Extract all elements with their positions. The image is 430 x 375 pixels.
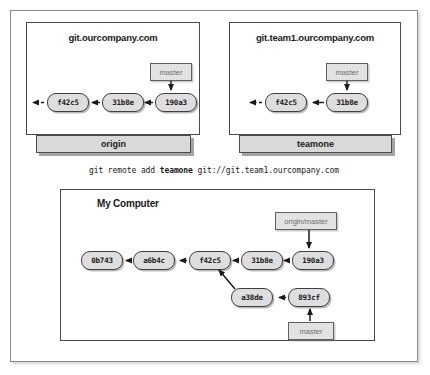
teamone-commit-f42c5: f42c5	[265, 93, 307, 112]
mycomputer-commit-893cf: 893cf	[288, 288, 330, 307]
mycomputer-commit-31b8e: 31b8e	[241, 251, 283, 270]
mycomputer-commit-190a3-hash: 190a3	[302, 256, 324, 265]
origin-branch-label-master: master	[150, 63, 192, 81]
remote-name-teamone-text: teamone	[297, 139, 334, 149]
panel-origin-title: git.ourcompany.com	[27, 32, 199, 43]
origin-branch-label-master-text: master	[160, 68, 183, 77]
origin-commit-f42c5: f42c5	[47, 93, 89, 112]
origin-commit-f42c5-hash: f42c5	[57, 98, 79, 107]
git-remotes-diagram: git.ourcompany.com master f42c5 31b8e 19…	[0, 0, 430, 375]
mycomputer-commit-a6b4c: a6b4c	[133, 251, 175, 270]
command-remote-name: teamone	[160, 166, 193, 175]
mycomputer-commit-f42c5-hash: f42c5	[199, 256, 221, 265]
teamone-commit-f42c5-hash: f42c5	[275, 98, 297, 107]
mycomputer-commit-31b8e-hash: 31b8e	[251, 256, 273, 265]
mycomputer-commit-893cf-hash: 893cf	[298, 293, 320, 302]
teamone-branch-label-master-text: master	[336, 68, 359, 77]
mycomputer-branch-label-origin-master: origin/master	[275, 212, 337, 230]
origin-commit-31b8e: 31b8e	[102, 93, 144, 112]
origin-commit-190a3-hash: 190a3	[165, 98, 187, 107]
mycomputer-commit-0b743: 0b743	[81, 251, 123, 270]
mycomputer-branch-label-origin-master-text: origin/master	[284, 217, 327, 226]
mycomputer-branch-label-master: master	[288, 322, 334, 340]
mycomputer-branch-label-master-text: master	[300, 327, 323, 336]
command-prefix: git remote add	[89, 166, 160, 175]
panel-my-computer-title: My Computer	[61, 198, 410, 209]
mycomputer-commit-a38de: a38de	[231, 288, 273, 307]
panel-teamone-title: git.team1.ourcompany.com	[230, 32, 400, 43]
command-suffix: git://git.team1.ourcompany.com	[193, 166, 339, 175]
origin-commit-31b8e-hash: 31b8e	[112, 98, 134, 107]
mycomputer-commit-a6b4c-hash: a6b4c	[143, 256, 165, 265]
command-caption: git remote add teamone git://git.team1.o…	[10, 166, 418, 175]
mycomputer-commit-0b743-hash: 0b743	[91, 256, 113, 265]
teamone-branch-label-master: master	[326, 63, 368, 81]
remote-name-teamone: teamone	[239, 135, 392, 153]
remote-name-origin-text: origin	[101, 139, 126, 149]
mycomputer-commit-a38de-hash: a38de	[241, 293, 263, 302]
panel-teamone-server: git.team1.ourcompany.com	[229, 22, 401, 135]
mycomputer-commit-f42c5: f42c5	[189, 251, 231, 270]
mycomputer-commit-190a3: 190a3	[292, 251, 334, 270]
remote-name-origin: origin	[36, 135, 191, 153]
teamone-commit-31b8e: 31b8e	[326, 93, 368, 112]
origin-commit-190a3: 190a3	[155, 93, 197, 112]
teamone-commit-31b8e-hash: 31b8e	[336, 98, 358, 107]
